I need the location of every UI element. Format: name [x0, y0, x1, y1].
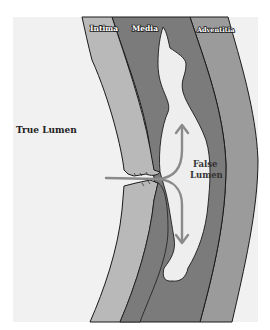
false-lumen-label-line1: False [193, 159, 218, 169]
diagram-canvas: Intima Media Adventitia True Lumen False… [0, 0, 270, 330]
arrow-flow-in [106, 178, 158, 179]
false-lumen-label-line2: Lumen [190, 170, 223, 180]
true-lumen-label: True Lumen [16, 125, 77, 135]
intima-label: Intima [90, 24, 118, 33]
aortic-dissection-diagram: Intima Media Adventitia True Lumen False… [0, 0, 270, 330]
media-label: Media [132, 24, 158, 33]
faint-caption-line [14, 322, 154, 328]
adventitia-label: Adventitia [196, 26, 235, 34]
